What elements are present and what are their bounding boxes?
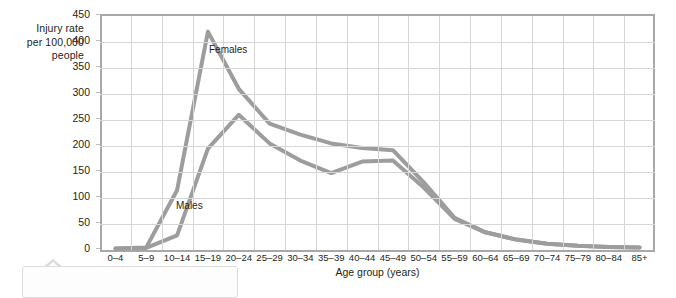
series-label-males: Males — [176, 200, 203, 211]
y-tick-label: 100 — [72, 191, 90, 201]
gridline-vertical — [501, 16, 502, 250]
x-tick-label: 60–64 — [472, 252, 498, 263]
y-axis-tick-labels: 050100150200250300350400450 — [0, 14, 96, 248]
y-tick-label: 200 — [72, 139, 90, 149]
gridline-vertical — [532, 16, 533, 250]
x-tick-label: 30–34 — [287, 252, 313, 263]
gridline-vertical — [378, 16, 379, 250]
y-tick-label: 50 — [78, 217, 90, 227]
x-tick-label: 50–54 — [411, 252, 437, 263]
gridline-vertical — [316, 16, 317, 250]
series-label-females: Females — [209, 44, 247, 55]
y-tick-label: 150 — [72, 165, 90, 175]
y-tick-label: 0 — [84, 243, 90, 253]
plot-inner — [100, 16, 655, 250]
gridline-vertical — [254, 16, 255, 250]
gridline-vertical — [439, 16, 440, 250]
x-tick-label: 75–79 — [565, 252, 591, 263]
gridline-vertical — [624, 16, 625, 250]
y-tick-label: 300 — [72, 87, 90, 97]
x-axis-tick-labels: 0–45–910–1415–1920–2425–2930–3435–3940–4… — [100, 252, 655, 266]
x-tick-label: 0–4 — [107, 252, 123, 263]
y-tick-label: 400 — [72, 35, 90, 45]
gridline-vertical — [193, 16, 194, 250]
y-tick-label: 450 — [72, 9, 90, 19]
plot-area — [100, 14, 655, 252]
gridline-vertical — [470, 16, 471, 250]
gridline-vertical — [131, 16, 132, 250]
gridline-vertical — [593, 16, 594, 250]
gridline-vertical — [563, 16, 564, 250]
x-tick-label: 45–49 — [380, 252, 406, 263]
y-tick-label: 250 — [72, 113, 90, 123]
gridline-vertical — [285, 16, 286, 250]
gridline-vertical — [347, 16, 348, 250]
gridline-vertical — [162, 16, 163, 250]
x-tick-label: 15–19 — [195, 252, 221, 263]
x-tick-label: 10–14 — [164, 252, 190, 263]
x-tick-label: 35–39 — [318, 252, 344, 263]
x-tick-label: 25–29 — [256, 252, 282, 263]
y-tick-label: 350 — [72, 61, 90, 71]
x-tick-label: 85+ — [632, 252, 648, 263]
x-tick-label: 70–74 — [534, 252, 560, 263]
x-tick-label: 55–59 — [441, 252, 467, 263]
gridline-vertical — [408, 16, 409, 250]
callout-bubble — [22, 266, 238, 298]
x-tick-label: 5–9 — [138, 252, 154, 263]
x-tick-label: 65–69 — [503, 252, 529, 263]
x-tick-label: 40–44 — [349, 252, 375, 263]
x-tick-label: 80–84 — [596, 252, 622, 263]
x-tick-label: 20–24 — [226, 252, 252, 263]
